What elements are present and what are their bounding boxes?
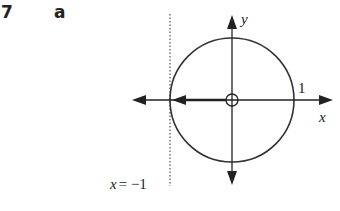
x-axis-right-arrow-icon — [319, 95, 333, 105]
diagram: y x 1 x= −1 — [0, 0, 340, 211]
x-axis-label: x — [318, 109, 326, 125]
tick-label-1: 1 — [298, 80, 306, 96]
x-axis-left-arrow-icon — [132, 95, 146, 105]
y-axis-down-arrow-icon — [227, 171, 237, 185]
y-axis-up-arrow-icon — [227, 15, 237, 29]
vertical-line-label: x= −1 — [109, 176, 147, 192]
radius-arrow-head-icon — [172, 95, 186, 105]
y-axis-label: y — [239, 11, 248, 27]
